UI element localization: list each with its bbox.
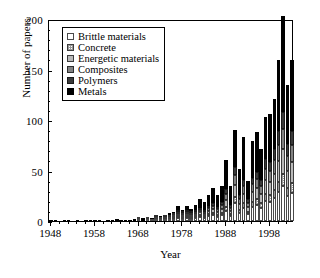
x-tick-minor: [85, 222, 86, 224]
bar-segment: [264, 159, 268, 168]
legend-swatch-icon: [67, 66, 74, 73]
bar-1995: [255, 132, 259, 221]
bar-segment: [159, 219, 163, 221]
bar-segment: [246, 214, 250, 221]
x-tick-label: 1958: [83, 227, 105, 239]
y-tick: [48, 121, 52, 122]
bar-1982: [198, 199, 202, 221]
bar-segment: [251, 192, 255, 202]
bar-segment: [251, 207, 255, 221]
x-tick-minor: [243, 222, 244, 224]
bar-segment: [150, 219, 154, 221]
y-tick-minor: [48, 161, 50, 162]
bar-segment: [264, 169, 268, 180]
legend: Brittle materialsConcreteEnergetic mater…: [62, 27, 165, 101]
bar-segment: [255, 172, 259, 179]
bar-segment: [106, 220, 110, 221]
bar-segment: [273, 99, 277, 150]
x-tick-minor: [164, 222, 165, 224]
bar-segment: [281, 112, 285, 129]
bar-1958: [93, 220, 97, 221]
bar-1983: [203, 202, 207, 221]
legend-item: Composites: [67, 64, 159, 75]
bar-segment: [89, 220, 93, 221]
bar-segment: [286, 196, 290, 221]
bar-1977: [176, 206, 180, 221]
bar-segment: [264, 201, 268, 221]
legend-item: Energetic materials: [67, 53, 159, 64]
bar-segment: [290, 60, 294, 131]
bar-1990: [233, 130, 237, 221]
bar-segment: [198, 217, 202, 221]
bar-1974: [163, 216, 167, 221]
bar-segment: [119, 220, 123, 221]
bar-segment: [268, 171, 272, 182]
bar-segment: [141, 218, 145, 221]
bar-segment: [220, 186, 224, 202]
x-axis-title: Year: [48, 248, 293, 260]
bar-segment: [255, 179, 259, 188]
bar-segment: [76, 220, 80, 221]
x-tick-minor: [260, 222, 261, 224]
bar-1970: [146, 217, 150, 221]
bar-2003: [290, 60, 294, 221]
y-tick-minor: [48, 30, 50, 31]
bar-segment: [277, 131, 281, 145]
bar-segment: [154, 219, 158, 221]
y-tick-minor: [48, 101, 50, 102]
x-tick-minor: [251, 222, 252, 224]
y-tick-minor: [48, 91, 50, 92]
x-tick-label: 1998: [258, 227, 280, 239]
bar-segment: [233, 203, 237, 221]
bar-1987: [220, 186, 224, 221]
bar-1979: [185, 206, 189, 221]
bar-segment: [238, 213, 242, 221]
y-tick-minor: [48, 192, 50, 193]
bar-segment: [281, 186, 285, 221]
bar-segment: [281, 174, 285, 186]
x-tick: [269, 222, 270, 226]
y-tick: [48, 71, 52, 72]
x-tick-minor: [68, 222, 69, 224]
bar-1956: [84, 220, 88, 221]
bar-segment: [277, 161, 281, 181]
y-tick-minor: [48, 151, 50, 152]
bar-segment: [251, 141, 255, 177]
x-tick-minor: [155, 222, 156, 224]
bar-segment: [238, 169, 242, 195]
x-tick-label: 1948: [39, 227, 61, 239]
x-tick-minor: [103, 222, 104, 224]
bar-segment: [63, 220, 67, 221]
bar-segment: [255, 205, 259, 221]
x-tick-minor: [278, 222, 279, 224]
bar-segment: [290, 145, 294, 162]
bar-1996: [259, 149, 263, 221]
bar-1961: [106, 220, 110, 221]
bar-segment: [290, 131, 294, 145]
bar-1957: [89, 220, 93, 221]
x-tick: [138, 222, 139, 226]
bar-segment: [224, 160, 228, 188]
bar-segment: [273, 160, 277, 173]
legend-label: Concrete: [78, 42, 116, 53]
bar-segment: [67, 220, 71, 221]
y-tick-minor: [48, 60, 50, 61]
x-tick: [50, 222, 51, 226]
y-tick-minor: [48, 202, 50, 203]
x-tick: [225, 222, 226, 226]
bar-segment: [229, 186, 233, 205]
legend-swatch-icon: [67, 44, 74, 51]
x-tick-minor: [216, 222, 217, 224]
bar-1991: [238, 168, 242, 221]
bar-segment: [207, 195, 211, 206]
bar-1962: [111, 220, 115, 221]
legend-swatch-icon: [67, 33, 74, 40]
bar-segment: [259, 149, 263, 179]
x-tick-minor: [120, 222, 121, 224]
x-tick-minor: [190, 222, 191, 224]
bar-segment: [172, 219, 176, 221]
legend-item: Concrete: [67, 42, 159, 53]
y-tick-label: 0: [37, 217, 43, 228]
bar-segment: [220, 215, 224, 221]
y-tick-label: 50: [32, 166, 43, 177]
